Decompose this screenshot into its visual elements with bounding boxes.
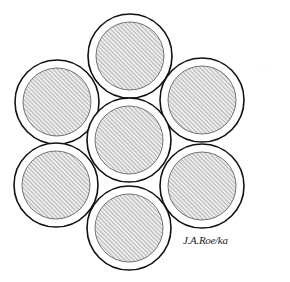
strand-upper-left <box>15 60 99 144</box>
author-signature: J.A.Roe/ka <box>183 234 228 246</box>
strand-hatched-core <box>23 68 91 136</box>
strand-hatched-core <box>168 66 236 134</box>
strand-hatched-core <box>168 152 236 220</box>
strand-top <box>88 14 172 98</box>
strand-center <box>87 98 171 182</box>
faint-watermark-text: · · · · · · <box>252 68 272 74</box>
strand-hatched-core <box>96 22 164 90</box>
strand-hatched-core <box>22 151 90 219</box>
strand-group <box>14 14 244 270</box>
strand-lower-left <box>14 143 98 227</box>
strand-hatched-core <box>95 106 163 174</box>
strand-lower-right <box>160 144 244 228</box>
strand-bottom <box>87 186 171 270</box>
cable-cross-section-diagram <box>0 0 290 282</box>
strand-upper-right <box>160 58 244 142</box>
strand-hatched-core <box>95 194 163 262</box>
